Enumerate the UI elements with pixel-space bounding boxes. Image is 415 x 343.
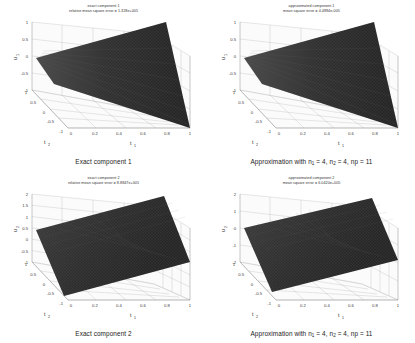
panel-title-line2: mean square error = 4.4894e-005 [208,9,415,14]
svg-text:-0.5: -0.5 [47,119,55,124]
x-tick-labels: 0 0.2 0.4 0.6 0.8 1 [70,131,192,136]
caption-n1-eq: = 4, [314,158,329,165]
panel-title: approximated component 1 mean square err… [208,4,415,13]
figure-canvas: exact component 1 relative mean square e… [0,0,415,343]
svg-text:t: t [44,311,46,317]
svg-text:1: 1 [189,303,192,308]
svg-text:t: t [338,312,340,318]
panel-title: exact component 2 relative mean square e… [0,176,207,185]
caption-n2-eq: = 4, [336,330,351,337]
svg-text:-0.5: -0.5 [255,119,263,124]
svg-text:0.2: 0.2 [300,303,306,308]
surface-plot-svg: 1 0.5 0 -0.5 -1 1 0.5 0 -0.5 -1 0 0.2 0.… [222,16,404,148]
svg-text:2: 2 [256,143,258,147]
svg-text:0.5: 0.5 [238,272,244,277]
svg-text:-0.5: -0.5 [21,249,29,254]
panel-approximated-component-1: approximated component 1 mean square err… [208,0,415,171]
axis-title-x: t 1 [338,140,344,148]
svg-text:1: 1 [397,303,400,308]
svg-text:2: 2 [48,143,50,147]
svg-text:-0.5: -0.5 [21,71,29,76]
svg-text:0.8: 0.8 [164,131,170,136]
svg-text:u: u [12,229,18,232]
surface-plot-svg: 1 0.5 0 -0.5 -1 1 0.5 0 -0.5 -1 0 0. [14,16,196,148]
axes-exact-component-1: 1 0.5 0 -0.5 -1 1 0.5 0 -0.5 -1 0 0. [14,16,196,148]
axis-title-y: t 2 [44,311,50,319]
svg-text:-1: -1 [232,243,236,248]
svg-text:0.4: 0.4 [324,303,330,308]
axes-approximated-component-1: 1 0.5 0 -0.5 -1 1 0.5 0 -0.5 -1 0 0.2 0.… [222,16,404,148]
svg-text:t: t [252,139,254,145]
svg-text:0.5: 0.5 [22,37,28,42]
axis-title-z: u 1 [12,54,20,60]
panel-exact-component-1: exact component 1 relative mean square e… [0,0,207,171]
panel-title-line1: exact component 2 [0,176,207,181]
svg-text:0: 0 [43,282,46,287]
svg-text:2: 2 [48,315,50,319]
svg-text:0.5: 0.5 [230,37,236,42]
panel-exact-component-2: exact component 2 relative mean square e… [0,172,207,343]
panel-title-line1: exact component 1 [0,4,207,9]
x-tick-labels: 0 0.2 0.4 0.6 0.8 1 [70,303,192,308]
svg-text:-1: -1 [267,129,271,134]
caption-np: np = 11 [351,330,373,337]
svg-text:u: u [220,229,226,232]
svg-text:0.6: 0.6 [140,131,146,136]
panel-caption: Exact component 1 [0,158,207,165]
svg-text:1: 1 [342,316,344,320]
svg-text:-0.5: -0.5 [255,291,263,296]
svg-text:0.5: 0.5 [30,100,36,105]
axis-title-z: u 1 [220,54,228,60]
svg-text:0.8: 0.8 [372,131,378,136]
caption-text: Exact component 2 [75,330,131,337]
axis-title-x: t 1 [338,312,344,320]
svg-text:0.8: 0.8 [372,303,378,308]
panel-title-line2: relative mean square error = 1.328e+005 [0,9,207,14]
panel-title-line2: mean square error = 6.0420e+005 [208,181,415,186]
panel-title: approximated component 2 mean square err… [208,176,415,185]
svg-text:1: 1 [234,209,237,214]
svg-text:0.6: 0.6 [140,303,146,308]
svg-text:0: 0 [278,303,281,308]
caption-text: Exact component 1 [75,158,131,165]
svg-text:0.4: 0.4 [324,131,330,136]
caption-n2-sub: 2 [333,333,336,338]
axis-title-y: t 2 [252,139,258,147]
svg-text:1: 1 [342,144,344,148]
caption-n2-sub: 2 [333,161,336,166]
svg-text:u: u [12,57,18,60]
svg-text:1: 1 [397,131,400,136]
svg-text:1.5: 1.5 [22,203,28,208]
svg-text:2: 2 [224,226,228,228]
svg-text:1: 1 [134,144,136,148]
svg-text:1: 1 [224,54,228,56]
axis-title-z: u 2 [12,226,20,232]
svg-text:0.8: 0.8 [164,303,170,308]
svg-text:0.4: 0.4 [116,131,122,136]
x-tick-labels: 0 0.2 0.4 0.6 0.8 1 [278,131,400,136]
svg-text:0.4: 0.4 [116,303,122,308]
svg-text:0: 0 [26,237,29,242]
svg-text:1: 1 [16,54,20,56]
svg-text:1: 1 [26,20,29,25]
svg-text:0.2: 0.2 [300,131,306,136]
svg-text:2: 2 [16,226,20,228]
svg-text:0.5: 0.5 [30,272,36,277]
panel-title: exact component 1 relative mean square e… [0,4,207,13]
svg-text:-0.5: -0.5 [229,71,237,76]
svg-text:1: 1 [234,20,237,25]
panel-caption: Approximation with n1 = 4, n2 = 4, np = … [208,330,415,337]
svg-text:1: 1 [189,131,192,136]
svg-text:0: 0 [43,110,46,115]
svg-text:2: 2 [234,192,237,197]
svg-text:0: 0 [234,54,237,59]
surface-plot-svg: 2 1 0 -1 -2 1 0.5 0 -0.5 -1 0 0.2 0.4 [222,188,404,320]
caption-n2-eq: = 4, [336,158,351,165]
svg-text:0: 0 [234,226,237,231]
svg-text:0.5: 0.5 [22,226,28,231]
svg-text:0: 0 [278,131,281,136]
panel-title-line1: approximated component 2 [208,176,415,181]
svg-text:0: 0 [251,110,254,115]
axis-title-x: t 1 [130,312,136,320]
z-tick-labels: 1 0.5 0 -0.5 -1 [229,20,237,93]
